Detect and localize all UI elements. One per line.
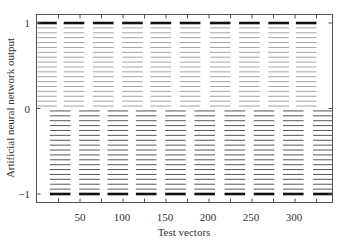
x-tick-label-300: 300 bbox=[286, 211, 303, 223]
x-tick-label-250: 250 bbox=[243, 211, 260, 223]
x-tick-label-200: 200 bbox=[200, 211, 217, 223]
x-tick-label-100: 100 bbox=[114, 211, 131, 223]
chart: 1 0 −1 50 100 150 200 250 300 Test vecto… bbox=[0, 0, 344, 245]
y-axis-label: Artificial neural network output bbox=[4, 38, 16, 178]
x-tick-label-150: 150 bbox=[157, 211, 174, 223]
y-tick-labels: 1 0 −1 bbox=[18, 17, 30, 200]
x-axis-label: Test vectors bbox=[158, 226, 211, 238]
x-tick-label-50: 50 bbox=[75, 211, 87, 223]
y-tick-label-1: 1 bbox=[25, 17, 31, 29]
x-tick-labels: 50 100 150 200 250 300 bbox=[75, 211, 303, 223]
data-points bbox=[38, 23, 333, 194]
y-tick-label-0: 0 bbox=[25, 103, 31, 115]
y-tick-label-neg1: −1 bbox=[18, 188, 30, 200]
